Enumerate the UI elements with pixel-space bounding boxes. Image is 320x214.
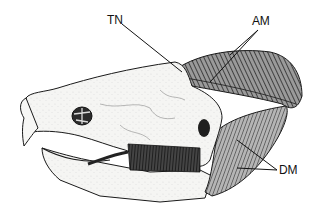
tn-leader-line	[122, 24, 182, 72]
label-tn: TN	[107, 14, 123, 26]
temporal-muscle-band	[128, 144, 200, 172]
anatomical-figure: TN AM DM	[0, 0, 320, 214]
label-dm: DM	[279, 164, 297, 176]
skull-illustration	[0, 0, 320, 214]
temporal-fenestra	[198, 119, 210, 137]
jaw-groove	[88, 152, 128, 164]
label-am: AM	[252, 15, 270, 27]
